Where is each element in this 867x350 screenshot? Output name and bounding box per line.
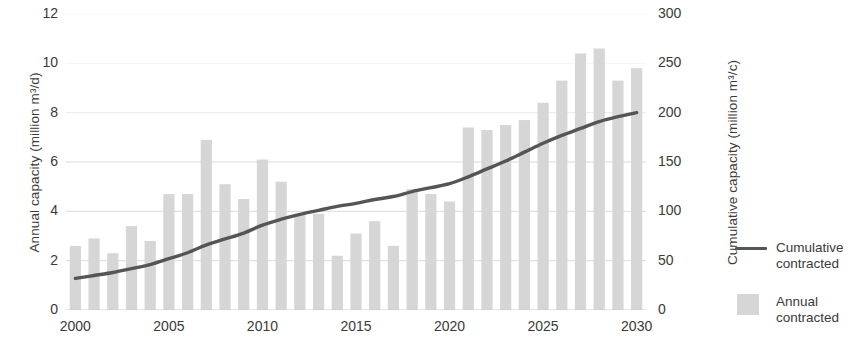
legend-item-cumulative: Cumulative contracted <box>735 240 867 272</box>
y-axis-right-tick-label: 150 <box>658 153 706 169</box>
y-axis-right-tick-label: 250 <box>658 54 706 70</box>
x-axis-tick-label: 2015 <box>326 318 386 334</box>
chart-container: Annual capacity (million m³/d) Cumulativ… <box>0 0 867 350</box>
legend-item-annual: Annual contracted <box>735 294 867 326</box>
y-axis-right-tick-label: 0 <box>658 301 706 317</box>
x-axis-tick-label: 2010 <box>232 318 292 334</box>
legend-label-annual-line1: Annual <box>776 294 839 310</box>
legend-label-cumulative: Cumulative contracted <box>776 240 844 272</box>
y-axis-left-tick-label: 12 <box>18 5 58 21</box>
y-axis-left-tick-label: 4 <box>18 202 58 218</box>
plot-area <box>66 14 646 310</box>
y-axis-left-tick-label: 6 <box>18 153 58 169</box>
y-axis-right-tick-label: 200 <box>658 104 706 120</box>
y-axis-right-tick-label: 50 <box>658 252 706 268</box>
legend-swatch-key <box>735 294 767 311</box>
x-axis-tick-label: 2025 <box>513 318 573 334</box>
y-axis-left-tick-label: 0 <box>18 301 58 317</box>
y-axis-right-tick-label: 300 <box>658 5 706 21</box>
x-axis-tick-label: 2005 <box>139 318 199 334</box>
y-axis-left-tick-label: 2 <box>18 252 58 268</box>
x-axis-tick-label: 2030 <box>607 318 667 334</box>
y-axis-right-tick-label: 100 <box>658 202 706 218</box>
legend-label-cumulative-line2: contracted <box>776 256 844 272</box>
legend-label-annual: Annual contracted <box>776 294 839 326</box>
x-axis-tick-label: 2020 <box>420 318 480 334</box>
legend-label-cumulative-line1: Cumulative <box>776 240 844 256</box>
legend-line-key <box>735 240 767 257</box>
chart-svg <box>66 14 646 310</box>
chart-legend: Cumulative contracted Annual contracted <box>735 240 867 348</box>
legend-label-annual-line2: contracted <box>776 310 839 326</box>
x-axis-tick-label: 2000 <box>45 318 105 334</box>
y-axis-left-tick-label: 10 <box>18 54 58 70</box>
y-axis-left-tick-label: 8 <box>18 104 58 120</box>
